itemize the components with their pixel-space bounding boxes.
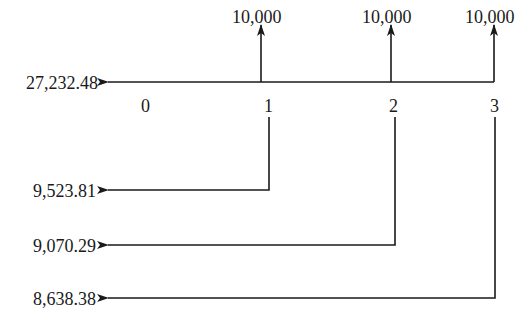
present-value-1: 9,523.81 (0, 182, 96, 200)
present-value-2: 9,070.29 (0, 237, 96, 255)
cash-flow-amount-2: 10,000 (362, 8, 412, 26)
cash-flow-amount-3: 10,000 (465, 8, 515, 26)
discount-path-2 (108, 117, 395, 245)
discount-path-1 (108, 117, 269, 190)
time-point-3: 3 (490, 97, 499, 115)
timeline-diagram (0, 0, 522, 331)
discount-path-3 (108, 117, 495, 298)
present-value-3: 8,638.38 (0, 290, 96, 308)
cash-flow-amount-1: 10,000 (232, 8, 282, 26)
present-value-total: 27,232.48 (0, 74, 98, 92)
time-point-2: 2 (389, 97, 398, 115)
time-point-1: 1 (264, 97, 273, 115)
time-point-0: 0 (141, 97, 150, 115)
